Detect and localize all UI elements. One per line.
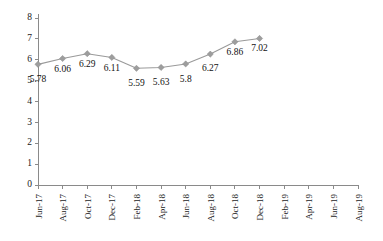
x-axis-labels: Jun-17Aug-17Oct-17Dec-17Feb-18Apr-18Jun-…: [34, 194, 364, 222]
data-point-label: 7.02: [251, 43, 268, 53]
x-tick-label: Jun-17: [34, 194, 44, 219]
x-tick-label: Aug-18: [206, 194, 216, 222]
y-axis-labels: 012345678: [27, 12, 32, 189]
y-tick-label: 6: [27, 54, 32, 64]
x-tick-label: Feb-19: [280, 194, 290, 220]
x-axis-ticks: [38, 185, 358, 189]
x-tick-label: Aug-17: [58, 194, 68, 222]
data-point-marker: [109, 54, 115, 60]
x-tick-label: Dec-17: [107, 194, 117, 221]
y-tick-label: 3: [27, 117, 32, 127]
data-point-label: 5.78: [30, 74, 47, 84]
data-point-labels: 5.786.066.296.115.595.635.86.276.867.02: [30, 43, 268, 88]
data-point-label: 5.8: [180, 74, 192, 84]
data-point-marker: [207, 51, 213, 57]
x-tick-label: Aug-19: [354, 194, 364, 222]
line-chart: 5.786.066.296.115.595.635.86.276.867.02 …: [0, 0, 383, 241]
y-tick-label: 7: [27, 33, 32, 43]
y-tick-label: 2: [27, 137, 32, 147]
x-tick-label: Apr-19: [304, 194, 314, 220]
x-tick-label: Oct-18: [230, 194, 240, 219]
data-point-marker: [35, 61, 41, 67]
x-tick-label: Feb-18: [132, 194, 142, 220]
data-point-label: 6.11: [104, 63, 121, 73]
x-tick-label: Jun-18: [181, 194, 191, 219]
x-tick-label: Jun-19: [329, 194, 339, 219]
data-point-marker: [232, 39, 238, 45]
chart-canvas: 5.786.066.296.115.595.635.86.276.867.02 …: [0, 0, 383, 241]
x-tick-label: Dec-18: [255, 194, 265, 221]
data-point-marker: [84, 51, 90, 57]
data-point-label: 5.59: [128, 78, 145, 88]
data-point-marker: [256, 35, 262, 41]
y-tick-label: 5: [27, 75, 32, 85]
y-tick-label: 8: [27, 12, 32, 22]
data-point-label: 6.27: [202, 63, 219, 73]
y-tick-label: 0: [27, 179, 32, 189]
x-tick-label: Oct-17: [83, 194, 93, 219]
data-point-label: 6.29: [79, 59, 96, 69]
y-tick-label: 4: [27, 96, 32, 106]
y-tick-label: 1: [27, 158, 32, 168]
data-point-marker: [60, 55, 66, 61]
data-point-label: 6.06: [54, 64, 71, 74]
data-point-marker: [183, 61, 189, 67]
data-point-label: 6.86: [227, 47, 244, 57]
x-tick-label: Apr-18: [157, 194, 167, 220]
data-point-marker: [133, 65, 139, 71]
data-point-marker: [158, 64, 164, 70]
data-point-label: 5.63: [153, 77, 170, 87]
